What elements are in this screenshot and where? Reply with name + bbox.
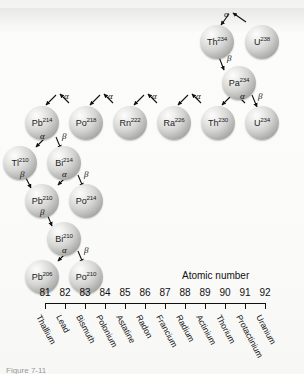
nuclide-label: Pb206 [25,271,59,282]
decay-label-alpha-14: α [62,246,67,255]
nuclide-label: Po210 [69,271,103,282]
nuclide-u238: U238 [245,25,279,59]
decay-label-alpha-6: α [108,92,113,101]
nuclide-label: Po214 [69,195,103,206]
axis-tick-83 [85,303,86,309]
nuclide-label: Th234 [200,36,234,47]
element-name-radon: Radon [134,313,155,340]
axis-tick-label-92: 92 [253,287,277,298]
axis-tick-88 [185,303,186,309]
decay-label-alpha-8: α [40,132,45,141]
axis-tick-89 [205,303,206,309]
decay-label-beta-10: β [20,170,24,179]
decay-label-beta-2: β [258,92,262,101]
nuclide-label: Rn222 [113,117,147,128]
decay-label-beta-15: β [84,246,88,255]
decay-series-figure: U238Th234Pa234U234Th230Ra226Rn222Po218Pb… [0,0,304,374]
axis-tick-85 [125,303,126,309]
nuclide-ra226: Ra226 [157,106,191,140]
decay-label-beta-13: β [40,208,44,217]
nuclide-label: Bi214 [47,157,81,168]
nuclide-label: U234 [245,117,279,128]
axis-tick-90 [225,303,226,309]
element-name-lead: Lead [54,313,72,334]
nuclide-label: Po218 [69,117,103,128]
nuclide-u234: U234 [245,106,279,140]
decay-label-beta-1: β [227,54,231,63]
axis-tick-87 [165,303,166,309]
decay-label-alpha-5: α [152,92,157,101]
nuclide-label: Th230 [201,117,235,128]
nuclide-label: Bi210 [47,233,81,244]
nuclide-po214: Po214 [69,184,103,218]
nuclide-rn222: Rn222 [113,106,147,140]
axis-tick-86 [145,303,146,309]
nuclide-po218: Po218 [69,106,103,140]
axis-title: Atomic number [182,270,249,281]
atomic-number-axis [45,303,265,304]
axis-tick-82 [65,303,66,309]
decay-label-alpha-11: α [62,170,67,179]
axis-tick-81 [45,303,46,309]
nuclide-label: Ra226 [157,117,191,128]
figure-caption: Figure 7-11 [6,366,46,374]
decay-label-beta-9: β [62,132,66,141]
nuclide-label: U238 [245,36,279,47]
nuclide-label: Pa234 [222,77,256,88]
axis-tick-92 [265,303,266,309]
decay-label-alpha-0: α [224,10,229,19]
nuclide-label: Pb214 [25,117,59,128]
axis-tick-91 [245,303,246,309]
axis-tick-84 [105,303,106,309]
nuclide-th230: Th230 [201,106,235,140]
decay-label-alpha-7: α [64,92,69,101]
nuclide-pa234: Pa234 [222,66,256,100]
nuclide-label: Tl210 [3,157,37,168]
decay-label-alpha-3: α [240,92,245,101]
nuclide-label: Pb210 [25,195,59,206]
decay-label-beta-12: β [84,170,88,179]
decay-label-alpha-4: α [196,92,201,101]
